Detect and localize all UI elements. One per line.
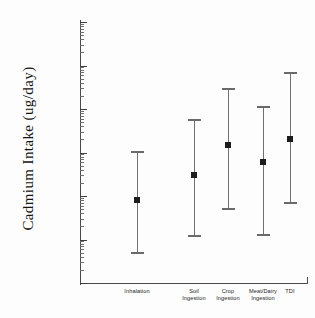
- error-bar-cap-lower: [284, 202, 297, 204]
- data-point-marker: [225, 142, 231, 148]
- error-bar-cap-upper: [131, 151, 144, 153]
- x-tick-label-1: Inhalation: [111, 288, 163, 295]
- error-bar-cap-lower: [222, 208, 235, 210]
- error-bar-cap-upper: [257, 106, 270, 108]
- error-bar-whisker: [228, 88, 229, 209]
- error-bar-cap-lower: [257, 234, 270, 236]
- y-major-tick: [80, 283, 87, 284]
- data-point-marker: [134, 197, 140, 203]
- cadmium-intake-chart: Cadmium Intake (ug/day) 10.10.010.0010.0…: [0, 0, 315, 318]
- data-point-marker: [287, 136, 293, 142]
- x-axis-line: [80, 283, 308, 284]
- x-tick-label-5: TDI: [264, 288, 315, 295]
- data-point-marker: [191, 172, 197, 178]
- error-bar-cap-lower: [188, 235, 201, 237]
- plot-area: [80, 22, 308, 283]
- error-bar-cap-upper: [284, 72, 297, 74]
- error-bar-whisker: [263, 106, 264, 235]
- error-bar-cap-lower: [131, 252, 144, 254]
- y-axis-title: Cadmium Intake (ug/day): [20, 13, 37, 285]
- error-bar-cap-upper: [188, 119, 201, 121]
- data-point-marker: [260, 159, 266, 165]
- error-bar-cap-upper: [222, 88, 235, 90]
